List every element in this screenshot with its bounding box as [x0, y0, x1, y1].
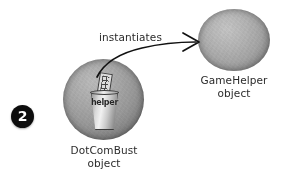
- dotcombust-object-label: DotComBust object: [53, 144, 155, 169]
- gamehelper-label-line1: GameHelper: [189, 74, 279, 87]
- helper-icon-label: helper: [88, 98, 121, 107]
- sphere-texture: [198, 9, 270, 71]
- step-number-badge: 2: [11, 105, 34, 128]
- dotcombust-object-sphere: helper: [63, 59, 144, 140]
- instantiates-edge-label: instantiates: [99, 31, 162, 43]
- dotcombust-label-line1: DotComBust: [53, 144, 155, 157]
- arrow-head: [183, 33, 199, 51]
- gamehelper-object-label: GameHelper object: [189, 74, 279, 99]
- gamehelper-label-line2: object: [189, 87, 279, 100]
- gamehelper-object-sphere: [198, 9, 270, 71]
- helper-cup-icon: helper: [85, 73, 123, 131]
- diagram-canvas: 2 helper DotComBust object GameHelper ob…: [0, 0, 284, 186]
- cup-rim: [90, 90, 119, 95]
- dotcombust-label-line2: object: [53, 157, 155, 170]
